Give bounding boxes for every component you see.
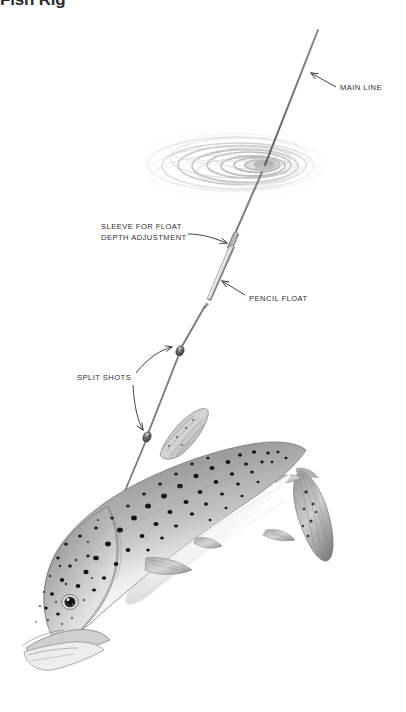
diagram-canvas: Fish Rig [0,0,406,712]
rig-illustration [0,0,406,712]
main-line-arrow [311,73,336,87]
pencil-float-arrow [222,281,245,295]
label-pencil-float: PENCIL FLOAT [249,294,308,305]
split-shot-lower-icon [141,430,152,443]
split-shot-lower-arrow [133,385,143,430]
label-sleeve-line-1: SLEEVE FOR FLOAT [101,222,187,233]
label-split-shots: SPLIT SHOTS [77,373,131,384]
water-ripple-icon [144,133,324,203]
split-shot-upper-arrow [136,347,172,373]
label-main-line: MAIN LINE [340,83,382,94]
label-sleeve-line-2: DEPTH ADJUSTMENT [101,233,187,244]
sleeve-arrow [188,234,227,243]
fish-illustration [22,409,333,671]
split-shot-upper-icon [174,345,185,358]
line-float-to-shot-upper [181,306,205,348]
line-between-shots [149,357,178,431]
fish-eye-icon [62,595,78,610]
label-sleeve-for-float: SLEEVE FOR FLOAT DEPTH ADJUSTMENT [101,222,187,243]
